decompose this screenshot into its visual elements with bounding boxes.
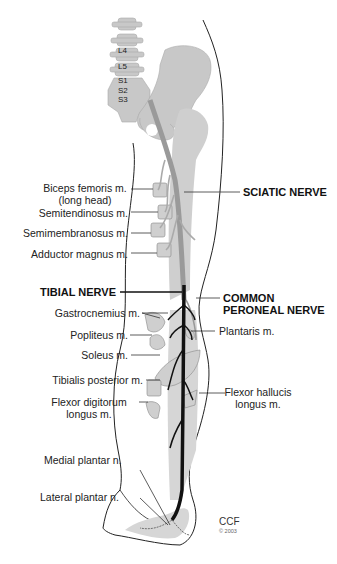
label-lateral-plantar: Lateral plantar n. [40, 491, 119, 503]
leg-anatomy-illustration [0, 0, 337, 564]
spine [108, 18, 150, 122]
label-adductor-magnus: Adductor magnus m. [20, 248, 128, 260]
label-soleus: Soleus m. [20, 349, 128, 361]
vertebra-l4: L4 [118, 46, 127, 55]
label-flexor-digitorum: Flexor digitorum longus m. [40, 396, 138, 420]
label-semitendinosus: Semitendinosus m. [20, 207, 128, 219]
label-common-peroneal-nerve: COMMON PERONEAL NERVE [223, 292, 325, 316]
vertebra-s3: S3 [118, 95, 128, 104]
vertebra-l5: L5 [118, 62, 127, 71]
femur [169, 108, 209, 300]
foot-bones [125, 508, 189, 538]
label-tibialis-posterior: Tibialis posterior m. [10, 374, 143, 386]
label-plantaris: Plantaris m. [219, 325, 274, 337]
label-biceps-femoris: Biceps femoris m. (long head) [42, 182, 128, 206]
label-semimembranosus: Semimembranosus m. [10, 227, 128, 239]
credit-org: CCF [219, 516, 240, 527]
credit-copyright: © 2003 [219, 528, 237, 534]
label-gastrocnemius: Gastrocnemius m. [20, 307, 140, 319]
label-tibial-nerve: TIBIAL NERVE [20, 286, 116, 298]
label-medial-plantar: Medial plantar n. [44, 454, 122, 466]
label-sciatic-nerve: SCIATIC NERVE [243, 186, 327, 198]
label-popliteus: Popliteus m. [20, 329, 128, 341]
vertebra-s1: S1 [118, 76, 128, 85]
label-flexor-hallucis: Flexor hallucis longus m. [222, 386, 294, 410]
vertebra-s2: S2 [118, 86, 128, 95]
